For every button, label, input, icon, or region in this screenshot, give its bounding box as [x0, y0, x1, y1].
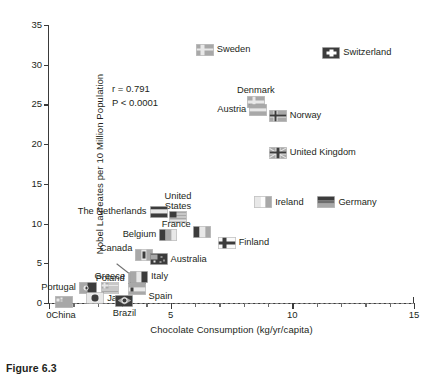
- point-label-the-netherlands: The Netherlands: [78, 206, 147, 217]
- data-point-germany[interactable]: Germany: [318, 197, 335, 208]
- y-tick-30: [44, 65, 49, 66]
- point-label-belgium: Belgium: [123, 229, 157, 240]
- data-point-switzerland[interactable]: Switzerland: [323, 47, 340, 58]
- point-label-spain: Spain: [149, 291, 173, 302]
- point-label-sweden: Sweden: [217, 44, 251, 55]
- point-label-ireland: Ireland: [275, 197, 303, 208]
- x-tick-13: [365, 303, 366, 307]
- data-point-sweden[interactable]: Sweden: [196, 44, 213, 55]
- y-tick-label-0: 0: [37, 298, 42, 308]
- point-label-italy: Italy: [151, 272, 168, 283]
- data-point-japan[interactable]: Japan: [87, 293, 104, 304]
- y-tick-label-15: 15: [31, 179, 42, 189]
- y-tick-20: [44, 144, 49, 145]
- point-label-germany: Germany: [338, 197, 376, 208]
- flag-icon-united-kingdom: [269, 147, 286, 158]
- y-tick-15: [44, 184, 49, 185]
- figure-container: 05101520253035 051015 Nobel Laureates pe…: [0, 0, 437, 382]
- flag-icon-ireland: [255, 197, 272, 208]
- flag-icon-brazil: [116, 295, 133, 306]
- point-label-finland: Finland: [239, 237, 270, 248]
- y-axis-line: [48, 25, 49, 304]
- x-axis-title: Chocolate Consumption (kg/yr/capita): [49, 324, 414, 335]
- y-tick-5: [44, 263, 49, 264]
- data-point-greece[interactable]: Greece: [101, 282, 118, 293]
- y-tick-35: [44, 25, 49, 26]
- point-label-denmark: Denmark: [237, 85, 275, 96]
- figure-caption: Figure 6.3: [6, 362, 57, 374]
- plot-area: 05101520253035 051015 Nobel Laureates pe…: [49, 25, 414, 303]
- flag-icon-norway: [269, 110, 286, 121]
- point-label-france: France: [162, 219, 191, 230]
- point-label-china: China: [51, 309, 75, 320]
- data-point-norway[interactable]: Norway: [269, 110, 286, 121]
- data-point-finland[interactable]: Finland: [218, 237, 235, 248]
- x-tick-label-15: 15: [409, 310, 420, 320]
- pvalue-annotation: P < 0.0001: [112, 96, 158, 110]
- flag-icon-italy: [131, 271, 148, 282]
- data-point-ireland[interactable]: Ireland: [255, 197, 272, 208]
- point-label-line-1: United: [165, 190, 192, 200]
- zero-reference-line: [49, 303, 414, 304]
- point-label-line-2: States: [165, 200, 192, 210]
- point-label-austria: Austria: [217, 105, 246, 116]
- flag-icon-china: [55, 297, 72, 308]
- y-axis-title: Nobel Laureates per 10 Million Populatio…: [94, 74, 105, 255]
- data-point-austria[interactable]: Austria: [250, 104, 267, 115]
- data-point-italy[interactable]: Italy: [131, 271, 148, 282]
- x-tick-14: [390, 303, 391, 307]
- y-tick-label-5: 5: [37, 259, 42, 269]
- y-tick-10: [44, 224, 49, 225]
- data-point-belgium[interactable]: Belgium: [160, 229, 177, 240]
- data-point-brazil[interactable]: Brazil: [116, 295, 133, 306]
- point-label-portugal: Portugal: [41, 283, 76, 294]
- data-point-france[interactable]: France: [194, 226, 211, 237]
- y-tick-25: [44, 104, 49, 105]
- point-label-switzerland: Switzerland: [343, 48, 391, 59]
- y-tick-label-10: 10: [31, 219, 42, 229]
- statistics-annotation: r = 0.791 P < 0.0001: [112, 82, 158, 109]
- x-tick-7: [219, 303, 220, 307]
- point-label-canada: Canada: [100, 242, 133, 253]
- point-label-australia: Australia: [171, 254, 207, 265]
- flag-icon-australia: [150, 254, 167, 265]
- flag-icon-finland: [218, 237, 235, 248]
- y-tick-label-30: 30: [31, 60, 42, 70]
- flag-icon-greece: [101, 282, 118, 293]
- data-point-united-kingdom[interactable]: United Kingdom: [269, 147, 286, 158]
- y-tick-label-25: 25: [31, 100, 42, 110]
- x-tick-1: [73, 303, 74, 307]
- point-label-greece: Greece: [95, 270, 126, 281]
- data-point-the-netherlands[interactable]: The Netherlands: [150, 206, 167, 217]
- flag-icon-switzerland: [323, 47, 340, 58]
- flag-icon-france: [194, 226, 211, 237]
- x-tick-11: [317, 303, 318, 307]
- x-tick-8: [244, 303, 245, 307]
- x-tick-9: [268, 303, 269, 307]
- flag-icon-austria: [250, 104, 267, 115]
- flag-icon-sweden: [196, 44, 213, 55]
- x-tick-4: [146, 303, 147, 307]
- point-label-norway: Norway: [290, 110, 322, 121]
- flag-icon-germany: [318, 197, 335, 208]
- flag-icon-japan: [87, 293, 104, 304]
- point-label-brazil: Brazil: [113, 308, 136, 319]
- point-label-united-kingdom: United Kingdom: [290, 148, 356, 159]
- x-tick-12: [341, 303, 342, 307]
- y-tick-label-20: 20: [31, 139, 42, 149]
- x-tick-label-10: 10: [287, 310, 298, 320]
- point-label-united-states: UnitedStates: [165, 190, 192, 210]
- flag-icon-belgium: [160, 229, 177, 240]
- flag-icon-the-netherlands: [150, 206, 167, 217]
- y-tick-label-35: 35: [31, 20, 42, 30]
- data-point-australia[interactable]: Australia: [150, 254, 167, 265]
- correlation-value: r = 0.791: [112, 82, 158, 96]
- data-point-china[interactable]: China: [55, 297, 72, 308]
- x-tick-label-5: 5: [168, 310, 173, 320]
- x-tick-6: [195, 303, 196, 307]
